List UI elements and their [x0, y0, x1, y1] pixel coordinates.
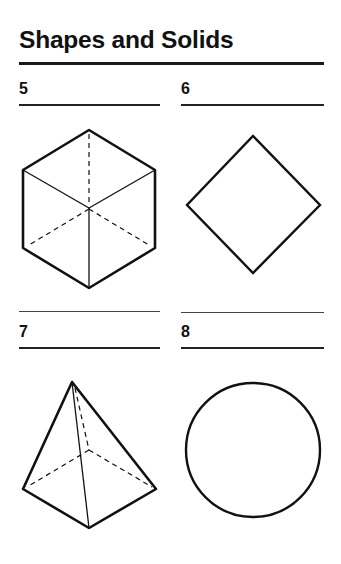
figures-canvas	[0, 0, 341, 564]
pyramid-figure	[23, 382, 156, 528]
cube-figure	[23, 130, 155, 288]
square-figure	[187, 136, 320, 273]
circle-figure	[186, 383, 320, 517]
